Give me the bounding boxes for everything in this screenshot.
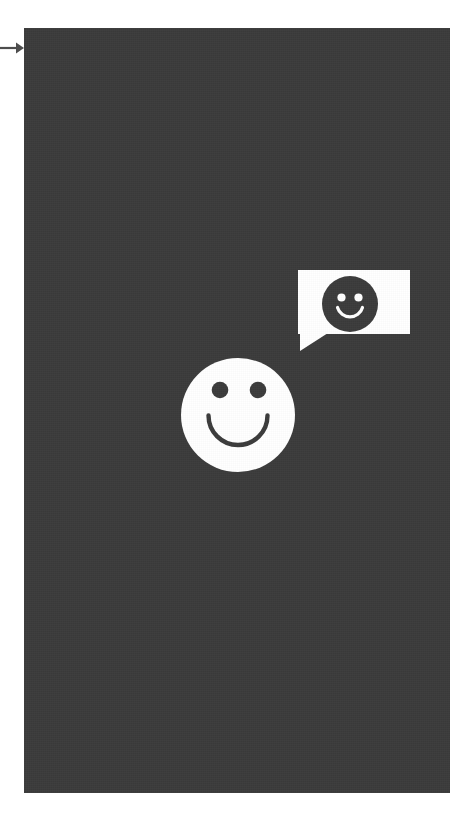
screenshot-canvas — [0, 0, 472, 820]
speech-bubble-tail — [300, 333, 328, 351]
chat-panel — [24, 28, 450, 793]
smiley-face-icon[interactable] — [181, 358, 295, 472]
smiley-face-icon — [322, 276, 378, 332]
speech-bubble[interactable] — [298, 270, 410, 334]
arrow-right-icon — [0, 39, 26, 57]
